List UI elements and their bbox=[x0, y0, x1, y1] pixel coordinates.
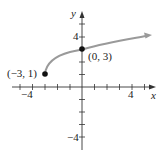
x-tick-label-neg4: −4 bbox=[21, 88, 33, 100]
point-neg3-1 bbox=[42, 71, 48, 77]
y-axis-label: y bbox=[70, 7, 76, 19]
curve-arrow-icon bbox=[144, 33, 152, 39]
graph: (−3, 1) (0, 3) y x −4 4 4 −4 bbox=[0, 0, 163, 153]
x-axis-label: x bbox=[150, 89, 156, 101]
point-0-3 bbox=[79, 46, 85, 52]
y-axis-arrow-icon bbox=[80, 11, 85, 18]
point2-label: (0, 3) bbox=[88, 50, 112, 63]
x-tick-label-4: 4 bbox=[128, 88, 134, 100]
point1-label: (−3, 1) bbox=[7, 67, 37, 80]
y-tick-label-neg4: −4 bbox=[67, 131, 79, 143]
y-tick-label-4: 4 bbox=[73, 30, 79, 42]
